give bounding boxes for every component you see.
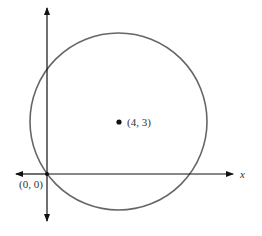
center-label: (4, 3) <box>127 116 151 129</box>
origin-label: (0, 0) <box>19 178 43 191</box>
x-axis-label: x <box>239 168 245 180</box>
circle-diagram: (4, 3) (0, 0) x <box>0 0 262 236</box>
origin-point <box>45 172 49 176</box>
center-point <box>116 119 121 124</box>
